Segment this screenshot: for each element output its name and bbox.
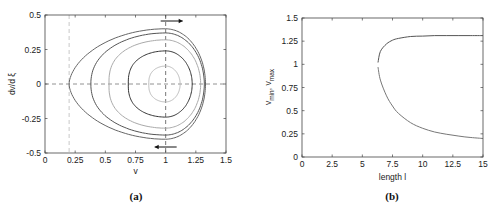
bifurcation-panel: 02.557.51012.515 1.51.2510.750.50.250 le… xyxy=(263,13,488,203)
x-tick-label: 0 xyxy=(43,155,48,165)
y-tick-label: 0.5 xyxy=(29,10,41,20)
x-tick-label: 10 xyxy=(418,159,428,169)
y-tick-label: 0.25 xyxy=(24,45,41,55)
reference-lines xyxy=(45,15,226,153)
y-tick-label: 0 xyxy=(293,152,298,162)
panel-caption: (b) xyxy=(385,190,399,203)
x-axis-label: length l xyxy=(379,172,407,182)
arrowhead-icon xyxy=(155,145,159,149)
x-tick-label: 7.5 xyxy=(387,159,399,169)
plot-frame xyxy=(45,15,226,153)
x-tick-label: 0.5 xyxy=(99,155,111,165)
y-tick-label: 1.25 xyxy=(281,36,298,46)
y-tick-label: 0.25 xyxy=(281,129,298,139)
y-tick-label: 1 xyxy=(293,59,298,69)
y-tick-label: -0.25 xyxy=(22,114,42,124)
y-tick-label: -0.5 xyxy=(26,148,41,158)
x-axis-ticks: 02.557.51012.515 xyxy=(300,18,488,169)
x-tick-label: 1.5 xyxy=(220,155,232,165)
branch-curves xyxy=(378,36,483,139)
x-tick-label: 0 xyxy=(300,159,305,169)
vmax-branch xyxy=(378,36,483,63)
x-tick-label: 0.75 xyxy=(127,155,144,165)
arrowhead-icon xyxy=(179,19,183,23)
x-tick-label: 2.5 xyxy=(326,159,338,169)
x-tick-label: 1 xyxy=(163,155,168,165)
y-tick-label: 0.75 xyxy=(281,83,298,93)
x-tick-label: 1.25 xyxy=(188,155,205,165)
y-tick-label: 1.5 xyxy=(286,13,298,23)
x-tick-label: 5 xyxy=(360,159,365,169)
figure: 00.250.50.7511.251.5 0.50.250-0.25-0.5 v… xyxy=(0,0,499,212)
phase-portrait-panel: 00.250.50.7511.251.5 0.50.250-0.25-0.5 v… xyxy=(7,10,232,203)
x-tick-label: 12.5 xyxy=(445,159,462,169)
y-axis-label: dv/d ξ xyxy=(7,73,17,95)
x-tick-label: 15 xyxy=(478,159,488,169)
y-tick-label: 0.5 xyxy=(286,106,298,116)
vmin-branch xyxy=(378,67,483,138)
panel-caption: (a) xyxy=(130,190,143,203)
y-axis-label: vmin, vmax xyxy=(263,68,275,105)
x-axis-label: v xyxy=(133,166,138,176)
x-tick-label: 0.25 xyxy=(67,155,84,165)
y-tick-label: 0 xyxy=(36,79,41,89)
svg-text:vmin, vmax: vmin, vmax xyxy=(263,68,275,105)
